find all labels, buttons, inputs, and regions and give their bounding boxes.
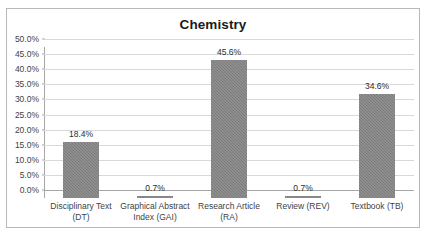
bar-group: 45.6%: [192, 47, 266, 198]
x-axis-category-label: Textbook (TB): [340, 201, 414, 212]
y-axis-tick-label: 50.0%: [15, 34, 39, 44]
x-axis-category-label: Review (REV): [266, 201, 340, 212]
y-axis-tick-label: 35.0%: [15, 79, 39, 89]
x-axis-category-label: Graphical AbstractIndex (GAI): [118, 201, 192, 223]
bar-value-label: 34.6%: [365, 81, 389, 91]
bar-group: 18.4%: [44, 47, 118, 198]
y-axis-tick-label: 10.0%: [15, 155, 39, 165]
bar[interactable]: [285, 196, 321, 198]
bar[interactable]: [63, 142, 99, 198]
x-axis-category-label: Disciplinary Text(DT): [44, 201, 118, 223]
chart-container: Chemistry 0.0%5.0%10.0%15.0%20.0%25.0%30…: [6, 8, 420, 228]
bar-group: 0.7%: [118, 47, 192, 198]
y-axis-tick-label: 5.0%: [20, 170, 39, 180]
y-axis-tick-label: 20.0%: [15, 125, 39, 135]
y-axis-tick-labels: 0.0%5.0%10.0%15.0%20.0%25.0%30.0%35.0%40…: [7, 39, 42, 190]
x-axis-label-line: (RA): [192, 212, 266, 223]
x-axis-category-labels: Disciplinary Text(DT)Graphical AbstractI…: [44, 201, 414, 229]
y-axis-tick-label: 15.0%: [15, 140, 39, 150]
y-axis-tick-label: 0.0%: [20, 185, 39, 195]
bar-value-label: 18.4%: [69, 129, 93, 139]
bar-group: 34.6%: [340, 47, 414, 198]
bar-group: 0.7%: [266, 47, 340, 198]
x-axis-label-line: Review (REV): [266, 201, 340, 212]
y-axis-tick-label: 25.0%: [15, 110, 39, 120]
bar[interactable]: [211, 60, 247, 198]
gridline: [44, 39, 414, 40]
x-axis-category-label: Research Article(RA): [192, 201, 266, 223]
y-axis-tick-label: 30.0%: [15, 94, 39, 104]
bar-value-label: 0.7%: [145, 183, 164, 193]
chart-title: Chemistry: [7, 17, 419, 32]
x-axis-label-line: Research Article: [192, 201, 266, 212]
x-axis-label-line: Index (GAI): [118, 212, 192, 223]
bar-value-label: 0.7%: [293, 183, 312, 193]
x-axis-label-line: Graphical Abstract: [118, 201, 192, 212]
y-axis-tick-label: 40.0%: [15, 64, 39, 74]
x-axis-label-line: Disciplinary Text: [44, 201, 118, 212]
bars-layer: 18.4%0.7%45.6%0.7%34.6%: [44, 47, 414, 198]
bar[interactable]: [137, 196, 173, 198]
x-axis-label-line: Textbook (TB): [340, 201, 414, 212]
bar-value-label: 45.6%: [217, 47, 241, 57]
y-axis-tick-label: 45.0%: [15, 49, 39, 59]
bar[interactable]: [359, 94, 395, 198]
x-axis-label-line: (DT): [44, 212, 118, 223]
